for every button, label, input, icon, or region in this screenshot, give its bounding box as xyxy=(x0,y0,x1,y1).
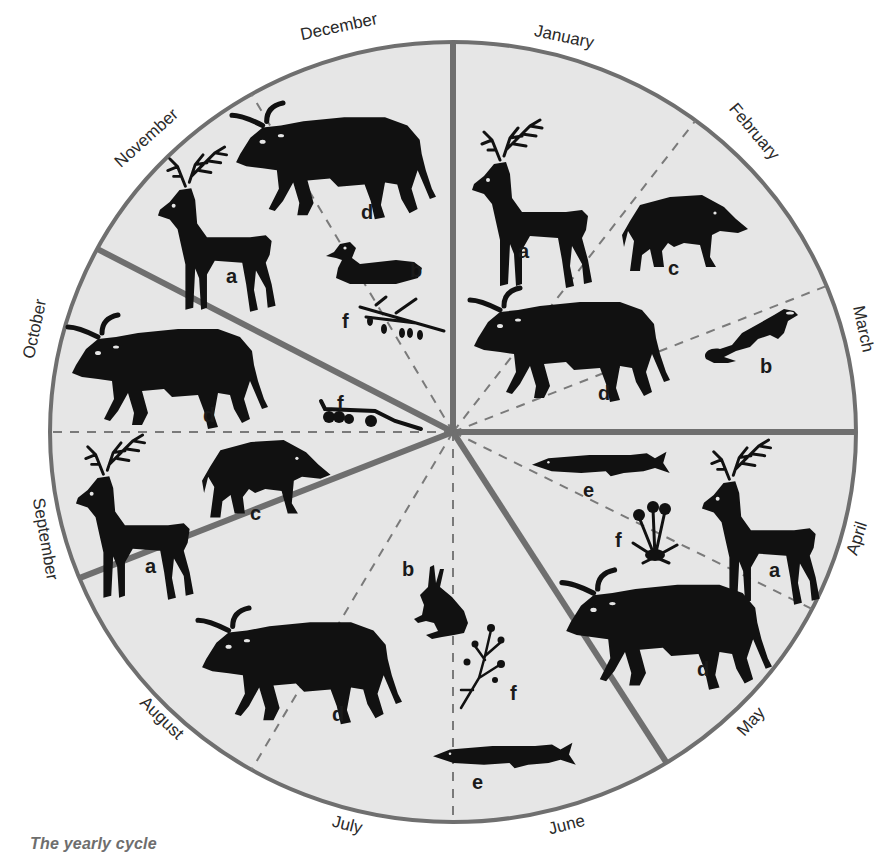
figure-letter-d: d xyxy=(361,201,373,223)
figure-letter-b: b xyxy=(760,355,772,377)
month-label-july: July xyxy=(330,812,364,838)
figure-letter-d: d xyxy=(598,382,610,404)
figure-letter-e: e xyxy=(583,479,594,501)
figure-letter-b: b xyxy=(410,259,422,281)
figure-letter-d: d xyxy=(697,658,709,680)
figure-letter-b: b xyxy=(402,558,414,580)
figure-letter-f: f xyxy=(510,682,517,704)
month-label-june: June xyxy=(546,811,586,838)
figure-letter-e: e xyxy=(472,771,483,793)
month-label-march: March xyxy=(849,304,877,354)
month-label-january: January xyxy=(533,21,597,52)
month-label-april: April xyxy=(842,519,871,557)
figure-letter-f: f xyxy=(337,392,344,414)
figure-letter-a: a xyxy=(226,265,238,287)
figure-letter-f: f xyxy=(342,310,349,332)
figure-letter-c: c xyxy=(668,257,679,279)
figure-letter-c: c xyxy=(250,502,261,524)
figure-letter-d: d xyxy=(332,703,344,725)
month-label-december: December xyxy=(299,9,380,44)
figure-letter-a: a xyxy=(518,240,530,262)
figure-letter-d: d xyxy=(203,404,215,426)
yearly-cycle-wheel: acbdefadefbdacdfadbf JanuaryFebruaryMarc… xyxy=(0,0,885,859)
caption-title: The yearly cycle xyxy=(30,835,157,853)
month-label-october: October xyxy=(19,297,50,360)
figure-letter-a: a xyxy=(145,555,157,577)
figure-letter-a: a xyxy=(769,559,781,581)
figure-letter-f: f xyxy=(615,529,622,551)
